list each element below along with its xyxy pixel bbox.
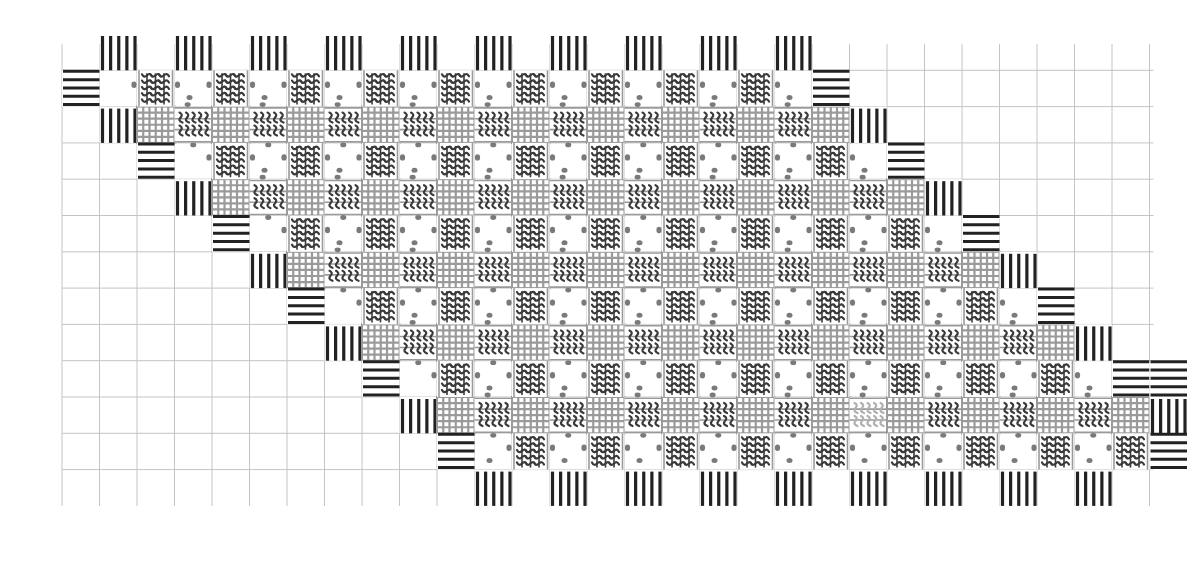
open-cell-dots (637, 458, 643, 463)
stitch-dot (412, 95, 418, 100)
stitch-dot (731, 299, 736, 305)
vertical-chain-stitch (1031, 361, 1080, 397)
stitch-dot (335, 175, 341, 180)
horizontal-chain-stitch (250, 175, 288, 220)
vertical-chain-stitch (431, 288, 480, 324)
stitch-dot (262, 168, 268, 173)
vertical-chain-stitch (956, 288, 1005, 324)
lattice-crossing (962, 252, 1000, 288)
stitch-dot (925, 299, 930, 305)
open-cell-dots (412, 95, 418, 100)
right-vertical-stripe-block (850, 107, 888, 143)
stitch-dot (410, 247, 416, 252)
stitch-dot (400, 299, 405, 305)
lattice-crossing (737, 107, 775, 143)
stitch-dot (185, 102, 191, 107)
horizontal-chain-stitch (250, 102, 288, 147)
right-edge-horizontal-stripe-block (1150, 361, 1188, 397)
horizontal-chain-stitch (550, 393, 588, 438)
stitch-dot (710, 393, 716, 398)
stitch-dot (1075, 372, 1080, 378)
stitch-dot (487, 240, 493, 245)
stitch-dot (806, 372, 811, 378)
stitch-dot (937, 385, 943, 390)
stitch-dot (712, 168, 718, 173)
open-cell-dots (637, 313, 643, 318)
stitch-dot (775, 82, 780, 88)
vertical-chain-stitch (356, 288, 405, 324)
stitch-dot (1000, 299, 1005, 305)
left-vertical-stripe-block (400, 397, 438, 433)
horizontal-chain-stitch (475, 247, 513, 292)
left-vertical-stripe-block (250, 252, 288, 288)
open-cell-dots (337, 168, 343, 173)
stitch-dot (862, 240, 868, 245)
stitch-dot (881, 445, 886, 451)
stitch-dot (475, 372, 480, 378)
open-cell-dots (262, 95, 268, 100)
stitch-dot (712, 95, 718, 100)
stitch-dot (581, 227, 586, 233)
stitch-dot (1015, 433, 1021, 438)
stitch-dot (485, 320, 491, 325)
stitch-dot (490, 288, 496, 293)
stitch-dot (710, 102, 716, 107)
lattice-crossing (812, 107, 850, 143)
stitch-dot (806, 445, 811, 451)
stitch-dot (487, 458, 493, 463)
stitch-dot (131, 82, 136, 88)
horizontal-chain-stitch (625, 393, 663, 438)
open-cell-dots (862, 240, 868, 245)
stitch-dot (881, 227, 886, 233)
stitch-dot (410, 320, 416, 325)
stitch-dot (625, 299, 630, 305)
stitch-dot (475, 299, 480, 305)
stitch-dot (262, 95, 268, 100)
open-cell-dots (712, 385, 718, 390)
lattice-crossing (812, 397, 850, 433)
stitch-dot (640, 433, 646, 438)
stitch-dot (250, 154, 255, 160)
lattice-crossing (137, 107, 175, 143)
top-vertical-stripe-block (550, 34, 588, 70)
stitch-dot (925, 372, 930, 378)
lattice-crossing (362, 324, 400, 360)
horizontal-chain-stitch (625, 175, 663, 220)
stitch-dot (506, 445, 511, 451)
vertical-chain-stitch (356, 143, 405, 179)
horizontal-chain-stitch (775, 175, 813, 220)
open-cell-dots (787, 95, 793, 100)
left-horizontal-stripe-block (362, 361, 400, 397)
open-cell-dots (1087, 385, 1093, 390)
lattice-crossing (437, 252, 475, 288)
vertical-chain-stitch (731, 70, 780, 106)
stitch-dot (640, 360, 646, 365)
vertical-chain-stitch (506, 433, 555, 469)
vertical-chain-stitch (581, 361, 630, 397)
lattice-crossing (662, 397, 700, 433)
stitch-dot (550, 299, 555, 305)
open-cell-dots (712, 458, 718, 463)
horizontal-chain-stitch (550, 320, 588, 365)
stitch-dot (790, 433, 796, 438)
lattice-crossing (437, 107, 475, 143)
lattice-crossing (512, 324, 550, 360)
open-cell-dots (1012, 458, 1018, 463)
stitch-dot (325, 82, 330, 88)
stitch-dot (475, 82, 480, 88)
horizontal-chain-stitch (925, 393, 963, 438)
stitch-dot (860, 393, 866, 398)
vertical-chain-stitch (506, 288, 555, 324)
horizontal-chain-stitch (775, 247, 813, 292)
vertical-chain-stitch (656, 216, 705, 252)
lattice-crossing (887, 324, 925, 360)
stitch-dot (937, 240, 943, 245)
stitch-dot (1106, 445, 1111, 451)
horizontal-chain-stitch (400, 102, 438, 147)
stitch-dot (635, 247, 641, 252)
vertical-chain-stitch (731, 143, 780, 179)
lattice-crossing (587, 252, 625, 288)
stitch-dot (625, 372, 630, 378)
stitch-dot (785, 175, 791, 180)
stitch-dot (490, 433, 496, 438)
